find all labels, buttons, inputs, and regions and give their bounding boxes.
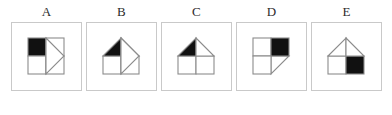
option-panel-d[interactable]: D: [236, 5, 307, 96]
option-panel-a[interactable]: A: [11, 5, 82, 96]
option-shape-e-svg: [311, 22, 382, 91]
base-right-black: [346, 56, 364, 74]
option-label-e: E: [311, 5, 382, 18]
answer-options-figure: A B: [0, 0, 392, 115]
option-label-b: B: [86, 5, 157, 18]
roof-right-white: [196, 38, 214, 56]
roof-left-white: [328, 38, 346, 56]
option-label-c: C: [161, 5, 232, 18]
option-panel-e[interactable]: E: [311, 5, 382, 96]
roof-left-black: [178, 38, 196, 56]
option-shape-a-svg: [11, 22, 82, 91]
lower-right-diagonal-triangle: [271, 56, 289, 74]
base-left-white: [178, 56, 196, 74]
option-shape-d: [236, 22, 307, 91]
cell-top-left-white: [253, 38, 271, 56]
option-shape-c: [161, 22, 232, 91]
base-right-white: [196, 56, 214, 74]
base-left-white: [328, 56, 346, 74]
cell-top-right-black: [271, 38, 289, 56]
roof-left-black: [103, 38, 121, 56]
option-panel-c[interactable]: C: [161, 5, 232, 96]
option-shape-c-svg: [161, 22, 232, 91]
base-left-white: [103, 56, 121, 74]
option-shape-d-svg: [236, 22, 307, 91]
option-label-a: A: [11, 5, 82, 18]
cell-bottom-left-white: [253, 56, 271, 74]
option-shape-a: [11, 22, 82, 91]
roof-right-white: [346, 38, 364, 56]
option-label-d: D: [236, 5, 307, 18]
option-shape-b: [86, 22, 157, 91]
option-shape-b-svg: [86, 22, 157, 91]
option-shape-e: [311, 22, 382, 91]
cell-top-left-black: [28, 38, 46, 56]
cell-bottom-left-white: [28, 56, 46, 74]
option-panel-b[interactable]: B: [86, 5, 157, 96]
